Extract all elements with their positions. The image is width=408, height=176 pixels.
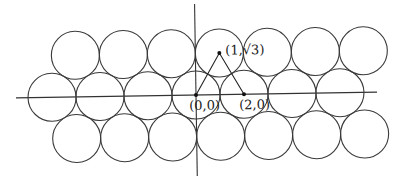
- origin-point: [194, 93, 198, 97]
- apex-label: (1,√3): [225, 42, 264, 58]
- circle: [99, 30, 148, 79]
- right-point-label: (2,0): [239, 97, 270, 112]
- circle: [196, 112, 245, 161]
- circle-packing-diagram: (0,0) (1,√3) (2,0): [0, 0, 408, 176]
- circle: [292, 110, 341, 159]
- circle: [291, 27, 340, 76]
- circle: [100, 113, 149, 162]
- y-axis: [195, 4, 198, 176]
- circle: [339, 26, 388, 75]
- circle: [148, 113, 197, 162]
- circle-row-bottom: [52, 110, 389, 163]
- circle: [340, 110, 389, 159]
- circle: [147, 29, 196, 78]
- circle: [52, 114, 101, 163]
- circle: [51, 31, 100, 80]
- origin-label: (0,0): [189, 98, 220, 113]
- circle: [244, 111, 293, 160]
